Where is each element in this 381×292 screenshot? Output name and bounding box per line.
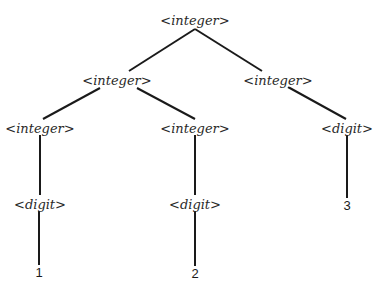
nonterminal-node-n4: <integer> [159, 122, 230, 135]
nonterminal-node-n7: <digit> [168, 198, 222, 211]
tree-edge-n2-n5 [288, 87, 346, 119]
nonterminal-node-n5: <digit> [320, 122, 374, 135]
nonterminal-node-n6: <digit> [13, 198, 67, 211]
tree-edge-n1-n4 [137, 88, 195, 119]
tree-edges [0, 0, 381, 292]
nonterminal-node-n2: <integer> [242, 74, 313, 87]
nonterminal-node-n0: <integer> [159, 14, 230, 27]
tree-edge-n0-n1 [129, 29, 195, 71]
terminal-node-n8: 3 [343, 199, 350, 212]
nonterminal-node-n1: <integer> [81, 74, 152, 87]
parse-tree-diagram: <integer><integer><integer><integer><int… [0, 0, 381, 292]
tree-edge-n1-n3 [43, 88, 100, 119]
terminal-node-n9: 1 [35, 266, 42, 279]
terminal-node-n10: 2 [191, 267, 198, 280]
nonterminal-node-n3: <integer> [4, 122, 75, 135]
tree-edge-n0-n2 [195, 29, 262, 71]
